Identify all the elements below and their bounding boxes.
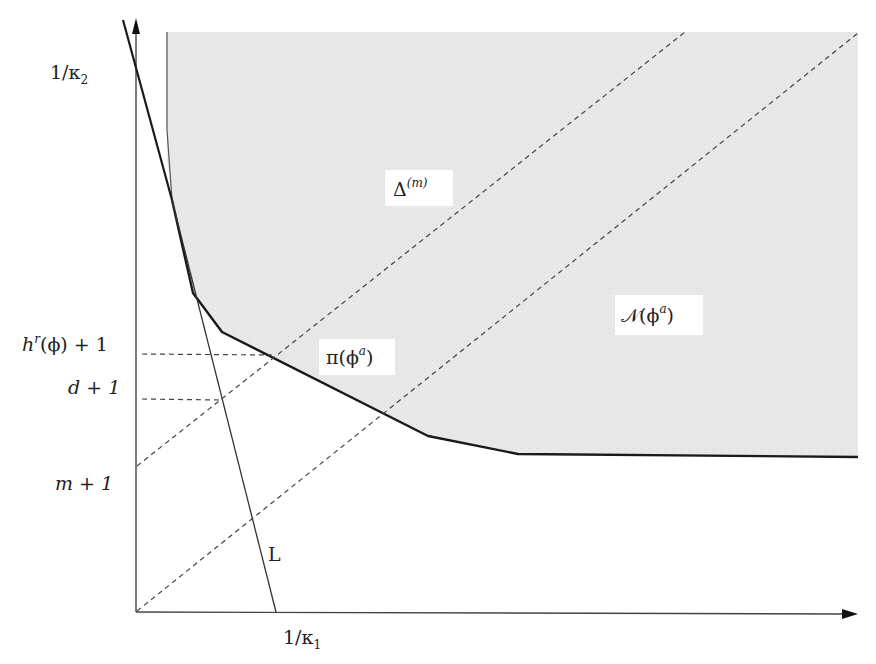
level-d	[142, 399, 220, 400]
x-axis	[136, 612, 845, 614]
label-line-L: L	[268, 543, 281, 565]
y-label-m-plus-1: m + 1	[55, 472, 113, 494]
y-axis-arrow-icon	[132, 18, 140, 34]
y-label-hr-phi: hr(ϕ) + 1	[22, 332, 108, 355]
y-label-d-plus-1: d + 1	[68, 376, 120, 398]
line-L-upper	[123, 20, 172, 200]
label-newton-polygon: 𝒩(ϕa)	[621, 302, 674, 326]
x-axis-arrow-icon	[842, 609, 858, 619]
x-label-inv-kappa1: 1/κ1	[283, 626, 321, 652]
level-hr	[142, 354, 272, 355]
label-pi-phi: π(ϕa)	[326, 344, 373, 368]
newton-polygon-diagram: 1/κ2 hr(ϕ) + 1 d + 1 m + 1 1/κ1 Δ(m) 𝒩(ϕ…	[0, 0, 876, 664]
y-label-inv-kappa2: 1/κ2	[50, 61, 88, 87]
newton-region	[167, 32, 858, 457]
